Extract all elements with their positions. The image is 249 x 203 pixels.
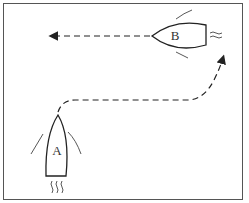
boat-b: B — [152, 10, 222, 58]
boat-a-label: A — [52, 143, 62, 158]
boat-a-course-arrow — [58, 58, 223, 112]
diagram-canvas: B A — [0, 0, 249, 203]
wake-icon — [210, 32, 222, 38]
bow-wave-icon — [31, 134, 43, 154]
boat-b-label: B — [171, 28, 180, 43]
bow-wave-icon — [176, 10, 192, 19]
boat-a: A — [31, 115, 81, 193]
bow-wave-icon — [176, 52, 188, 58]
bow-wave-icon — [68, 132, 81, 154]
wake-icon — [51, 181, 63, 193]
